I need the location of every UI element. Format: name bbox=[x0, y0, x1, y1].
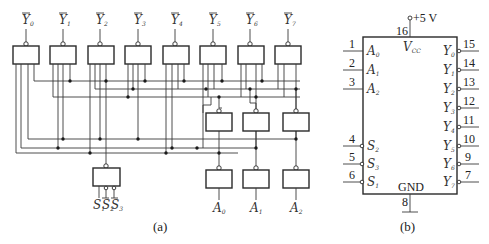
vcc-pin-number: 16 bbox=[396, 24, 408, 38]
gnd-label: GND bbox=[398, 180, 424, 194]
address-input-buffers: A0 A1 A2 bbox=[206, 166, 309, 215]
output-gate-1: Y1 bbox=[50, 13, 76, 64]
output-gates: Y0 Y1 Y2 bbox=[13, 13, 301, 64]
output-gate-2: Y2 bbox=[88, 13, 114, 64]
output-label-y5: Y5 bbox=[209, 13, 221, 27]
caption-b: (b) bbox=[400, 219, 415, 234]
supply-label: +5 V bbox=[413, 11, 438, 25]
logic-diagram-a: Y0 Y1 Y2 bbox=[13, 13, 309, 234]
pin-number-7: 7 bbox=[465, 168, 471, 182]
pin-number-5: 5 bbox=[349, 150, 355, 164]
pin-number-13: 13 bbox=[463, 75, 475, 89]
output-gate-3: Y3 bbox=[125, 13, 151, 64]
output-gate-0: Y0 bbox=[13, 13, 39, 64]
enable-gate: S1 S2 S3 bbox=[93, 164, 123, 212]
output-label-y4: Y4 bbox=[171, 13, 183, 27]
chip-pinout-b: +5 V 16 VCC GND 8 1 A0 2 A1 3 A2 4 S2 5 … bbox=[343, 11, 479, 234]
caption-a: (a) bbox=[153, 219, 167, 234]
output-gate-4: Y4 bbox=[163, 13, 189, 64]
output-label-y1: Y1 bbox=[59, 13, 71, 27]
pin-number-2: 2 bbox=[349, 56, 355, 70]
pin-number-10: 10 bbox=[463, 132, 475, 146]
address-buffer-a1: A1 bbox=[243, 166, 269, 215]
output-gate-7: Y7 bbox=[275, 13, 301, 64]
middle-inverters bbox=[206, 109, 309, 131]
pin-number-1: 1 bbox=[349, 37, 355, 51]
address-label-a1: A1 bbox=[249, 201, 263, 215]
gnd-pin-number: 8 bbox=[402, 195, 408, 209]
address-buffer-a2: A2 bbox=[283, 166, 309, 215]
pin-number-15: 15 bbox=[463, 37, 475, 51]
pin-number-6: 6 bbox=[349, 168, 355, 182]
pin-number-12: 12 bbox=[463, 94, 475, 108]
pin-number-4: 4 bbox=[349, 132, 355, 146]
output-label-y2: Y2 bbox=[96, 13, 108, 27]
output-gate-6: Y6 bbox=[238, 13, 264, 64]
output-label-y3: Y3 bbox=[134, 13, 146, 27]
address-label-a2: A2 bbox=[289, 201, 303, 215]
pin-number-3: 3 bbox=[349, 75, 355, 89]
output-label-y7: Y7 bbox=[284, 13, 296, 27]
address-label-a0: A0 bbox=[212, 201, 226, 215]
output-gate-5: Y5 bbox=[200, 13, 226, 64]
decoder-diagram: Y0 Y1 Y2 bbox=[0, 0, 489, 244]
address-buffer-a0: A0 bbox=[206, 166, 232, 215]
output-label-y6: Y6 bbox=[246, 13, 258, 27]
pin-number-11: 11 bbox=[463, 113, 475, 127]
enable-label-s3: S3 bbox=[111, 198, 123, 212]
pin-number-14: 14 bbox=[463, 56, 475, 70]
pin-number-9: 9 bbox=[465, 150, 471, 164]
output-label-y0: Y0 bbox=[22, 13, 34, 27]
